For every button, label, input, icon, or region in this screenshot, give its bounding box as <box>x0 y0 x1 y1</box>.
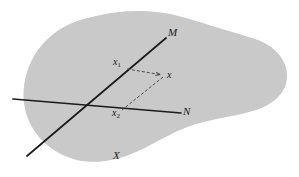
label-point-x1: x1 <box>113 57 121 67</box>
label-point-x2: x2 <box>112 108 120 118</box>
label-point-x-base: x <box>167 69 171 80</box>
label-line-n: N <box>183 106 190 117</box>
region-x-shape <box>23 11 287 162</box>
label-point-x: x <box>167 70 171 80</box>
figure-canvas: M N X x1 x x2 <box>0 0 299 177</box>
label-region-x: X <box>113 150 120 161</box>
label-point-x1-sub: 1 <box>117 61 121 69</box>
label-line-m: M <box>168 27 177 38</box>
label-point-x2-sub: 2 <box>116 112 120 120</box>
diagram-svg <box>0 0 299 177</box>
